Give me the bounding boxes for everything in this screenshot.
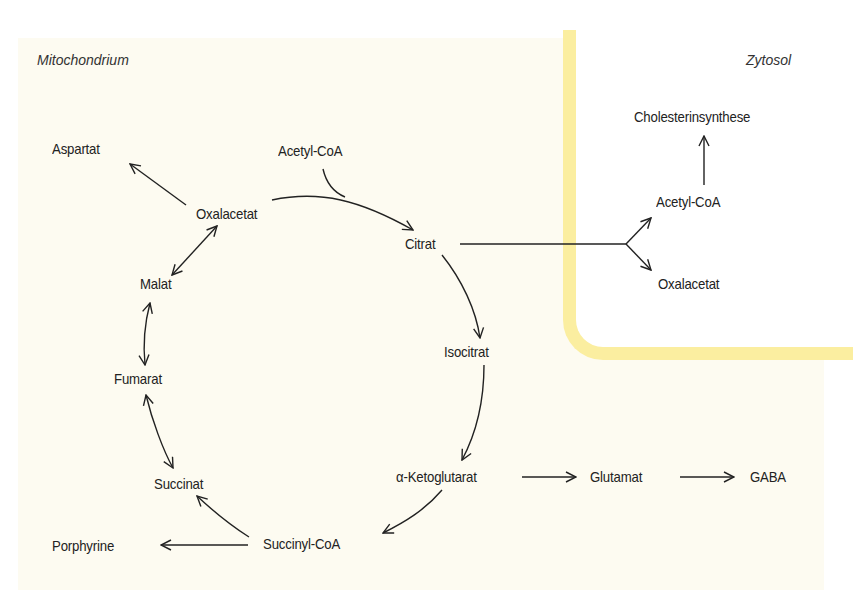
node-gaba: GABA	[750, 468, 786, 485]
node-glutamat: Glutamat	[590, 468, 642, 485]
arrow-malat-oxalacetat	[172, 226, 217, 275]
node-isocitrat: Isocitrat	[444, 343, 489, 360]
node-aspartat: Aspartat	[52, 140, 100, 157]
arrow-citrat-isocitrat	[442, 255, 480, 338]
node-oxalacetat-cyto: Oxalacetat	[658, 275, 719, 292]
node-porphyrine: Porphyrine	[52, 537, 114, 554]
arrow-split-oxalacetat	[626, 244, 651, 270]
arrow-succinat-fumarat	[146, 395, 173, 468]
arrow-oxalacetat-citrat	[272, 196, 413, 230]
arrow-succinylcoa-succinat	[197, 496, 249, 537]
arrow-akg-succinylcoa	[383, 490, 442, 533]
node-oxalacetat-mito: Oxalacetat	[196, 205, 257, 222]
node-acetyl-coa-cyto: Acetyl-CoA	[656, 193, 720, 210]
node-malat: Malat	[140, 275, 171, 292]
node-succinat: Succinat	[154, 475, 203, 492]
node-acetyl-coa-mito: Acetyl-CoA	[278, 142, 342, 159]
arrow-oxalacetat-aspartat	[130, 164, 186, 205]
node-fumarat: Fumarat	[114, 370, 162, 387]
arrow-fumarat-malat	[144, 303, 150, 365]
node-succinyl-coa: Succinyl-CoA	[263, 535, 340, 552]
arrow-acetylcoa-in	[323, 169, 345, 197]
compartment-label-mitochondrium: Mitochondrium	[37, 52, 129, 68]
compartment-label-zytosol: Zytosol	[746, 52, 791, 68]
arrow-isocitrat-akg	[462, 365, 484, 460]
arrow-split-acetylcoa	[626, 218, 651, 244]
node-alpha-ketoglutarat: α-Ketoglutarat	[396, 468, 477, 485]
node-cholesterinsynthese: Cholesterinsynthese	[634, 108, 750, 125]
node-citrat: Citrat	[405, 235, 435, 252]
